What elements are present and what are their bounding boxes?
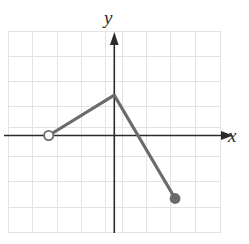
- x-axis-label: x: [228, 126, 236, 145]
- open-endpoint-marker: [44, 131, 53, 140]
- closed-endpoint-marker: [170, 193, 181, 204]
- y-axis-label: y: [104, 8, 112, 27]
- coordinate-plane-figure: [0, 0, 249, 244]
